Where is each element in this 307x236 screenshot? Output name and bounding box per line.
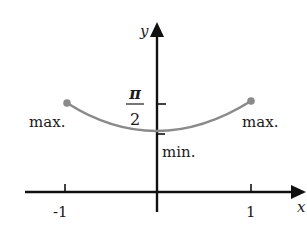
left-max-label: max. (29, 113, 65, 131)
y-axis (150, 22, 164, 212)
x-axis-arrow-icon (291, 185, 306, 199)
x-tick-label-1: 1 (246, 203, 256, 221)
pi-numerator: π (128, 84, 141, 103)
y-axis-label: y (139, 22, 149, 40)
curve (67, 101, 251, 131)
x-tick-label-neg1: -1 (53, 203, 68, 221)
x-axis (25, 185, 306, 199)
right-max-label: max. (242, 113, 278, 131)
y-tick-label-pi-over-2: π 2 (126, 84, 144, 129)
x-axis-label: x (297, 198, 306, 216)
right-max-point (247, 97, 255, 105)
min-label: min. (162, 143, 195, 161)
pi-denominator: 2 (130, 110, 140, 129)
left-max-point (63, 99, 71, 107)
y-axis-arrow-icon (150, 22, 164, 37)
function-graph: y x -1 1 π 2 max. max. min. (0, 0, 307, 236)
